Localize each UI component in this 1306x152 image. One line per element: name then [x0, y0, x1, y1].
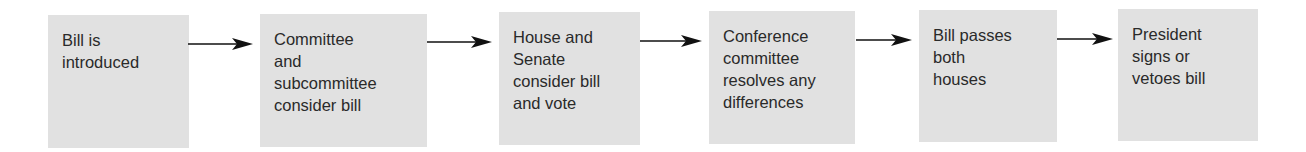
- step-6-president-signs-vetoes: President signs or vetoes bill: [1118, 9, 1258, 141]
- step-1-bill-introduced: Bill is introduced: [48, 15, 189, 148]
- arrow-right-icon: [427, 35, 492, 49]
- step-4-conference-committee: Conference committee resolves any differ…: [709, 11, 855, 144]
- arrow-3-to-4: [640, 34, 702, 48]
- arrow-right-icon: [640, 34, 702, 48]
- arrow-4-to-5: [856, 33, 912, 47]
- arrow-right-icon: [188, 37, 253, 51]
- step-3-house-senate-vote: House and Senate consider bill and vote: [499, 12, 640, 145]
- arrow-2-to-3: [427, 35, 492, 49]
- arrow-5-to-6: [1057, 32, 1113, 46]
- step-2-committee-consider: Committee and subcommittee consider bill: [260, 14, 427, 147]
- arrow-right-icon: [856, 33, 912, 47]
- arrow-right-icon: [1057, 32, 1113, 46]
- step-5-passes-both-houses: Bill passes both houses: [919, 10, 1057, 142]
- arrow-1-to-2: [188, 37, 253, 51]
